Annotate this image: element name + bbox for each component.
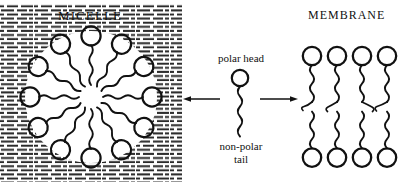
polar-head-circle — [232, 70, 248, 86]
center-legend-panel: polar head non-polar tail — [182, 0, 300, 186]
non-polar-tail-path — [238, 87, 242, 137]
membrane-panel: MEMBRANE — [300, 0, 405, 186]
amphiphile-assembly-figure: MICELLE polar head non-polar tail — [0, 0, 405, 186]
lipid-column — [378, 47, 396, 167]
left-arrow — [183, 96, 220, 101]
micelle-panel: MICELLE — [0, 0, 182, 186]
micelle-diagram — [0, 0, 182, 186]
non-polar-label-line1: non-polar — [220, 140, 263, 152]
membrane-lipid-columns — [302, 47, 396, 167]
non-polar-tail-label: non-polar tail — [182, 140, 300, 165]
non-polar-label-line2: tail — [234, 153, 248, 165]
tail-branches — [302, 102, 387, 112]
lipid-column — [328, 47, 346, 167]
micelle-title: MICELLE — [58, 8, 122, 24]
right-arrow — [260, 96, 298, 101]
membrane-title: MEMBRANE — [308, 8, 385, 23]
membrane-diagram — [300, 0, 405, 186]
water-hatching — [0, 4, 182, 182]
amphiphile-molecule — [232, 70, 248, 137]
lipid-column — [353, 47, 371, 167]
